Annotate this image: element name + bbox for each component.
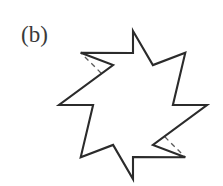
figure-panel: (b) [0, 0, 223, 186]
star-outline [59, 31, 207, 179]
star-diagram [0, 0, 223, 186]
